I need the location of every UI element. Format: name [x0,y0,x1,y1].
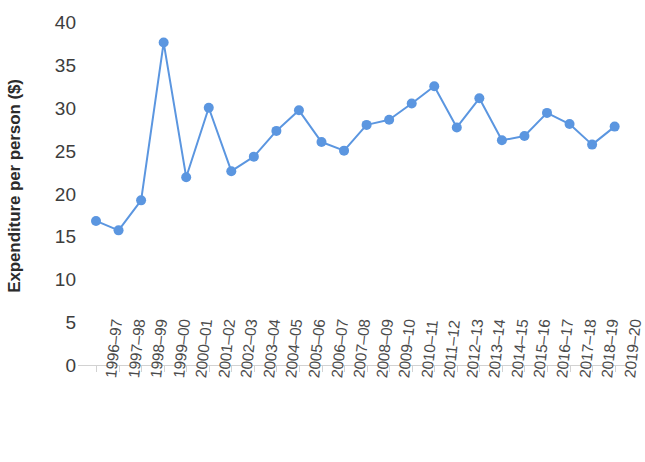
data-point [226,166,236,176]
y-axis-title-text: Expenditure per person ($) [5,79,25,293]
data-point [497,135,507,145]
series-line [96,43,615,231]
data-point [159,38,169,48]
data-point [204,103,214,113]
data-point [429,81,439,91]
y-tick-label: 10 [32,270,76,289]
data-point [519,131,529,141]
data-point [474,93,484,103]
data-point [249,152,259,162]
data-point [91,216,101,226]
data-point [362,120,372,130]
y-tick-label: 20 [32,184,76,203]
y-tick-label: 5 [32,313,76,332]
data-point [407,98,417,108]
y-axis-title: Expenditure per person ($) [0,0,30,372]
data-point [114,225,124,235]
y-tick-label: 25 [32,141,76,160]
data-point [181,172,191,182]
data-point [587,140,597,150]
data-point [452,122,462,132]
data-point [384,115,394,125]
data-point [271,126,281,136]
y-tick-label: 15 [32,227,76,246]
y-axis-tick-labels: 0510152025303540 [28,0,76,380]
x-axis-tick-labels: 1996–971997–981998–991999–002000–012001–… [84,377,627,462]
y-tick-label: 35 [32,55,76,74]
y-tick-label: 40 [32,13,76,32]
x-tick-mark [96,365,97,372]
data-point [610,122,620,132]
data-point [136,195,146,205]
y-tick-label: 30 [32,98,76,117]
data-point [339,146,349,156]
plot-area [84,0,627,372]
data-point [317,137,327,147]
series-plot [84,0,627,372]
data-point [565,119,575,129]
y-tick-label: 0 [32,356,76,375]
data-point [294,105,304,115]
data-point [542,108,552,118]
